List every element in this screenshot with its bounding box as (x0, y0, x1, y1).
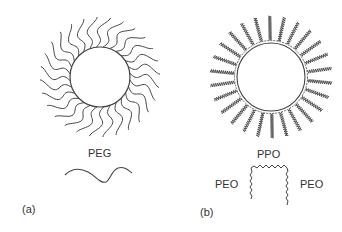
polymer-chain (126, 93, 140, 123)
polymer-chain (211, 81, 235, 87)
polymer-chain (219, 43, 240, 58)
polymer-chain (210, 69, 234, 75)
ppo-label: PPO (257, 149, 280, 160)
polymer-chain (116, 37, 146, 51)
polymer-chain (254, 19, 263, 42)
polymer-chain (130, 80, 155, 100)
peg-micelle (40, 17, 160, 137)
polymer-chain (128, 64, 160, 74)
polymer-chain (77, 19, 85, 52)
panel-a-label: (a) (22, 204, 35, 215)
polymer-chain (307, 67, 331, 73)
polymer-chain (103, 22, 123, 47)
peg-chain-icon (65, 167, 132, 182)
peo-left-label: PEO (215, 179, 238, 190)
polymer-chain (215, 90, 238, 102)
polymer-chain (231, 105, 248, 125)
diagram-canvas (0, 0, 342, 232)
polymer-chain (278, 17, 286, 40)
ppo-shell (235, 41, 308, 114)
polymer-chain (268, 16, 272, 40)
polymer-chain (279, 112, 288, 135)
polymer-chain (221, 98, 242, 114)
polymer-chain (60, 32, 74, 62)
polymer-chain (121, 98, 131, 130)
polymer-chain (128, 87, 148, 113)
polymer-chain (288, 109, 302, 131)
polymer-chain (300, 40, 321, 56)
peg-label: PEG (88, 148, 111, 159)
polymer-chain (270, 114, 274, 138)
polymer-chain (87, 17, 97, 49)
polymer-chain (286, 22, 299, 44)
polymer-chain (302, 96, 323, 111)
peo-right-label: PEO (300, 179, 323, 190)
polymer-chain (42, 92, 75, 100)
polymer-chain (40, 80, 72, 90)
polymer-chain (110, 28, 136, 48)
polymer-chain (294, 30, 311, 50)
polymer-chain (115, 102, 123, 135)
polymer-chain (47, 98, 79, 108)
peo-ppo-micelle (210, 16, 332, 138)
peo-ppo-peo-chain-icon (250, 165, 288, 205)
polymer-chain (69, 24, 79, 56)
panel-b-label: (b) (200, 207, 213, 218)
polymer-chain (77, 107, 97, 132)
polymer-chain (256, 114, 264, 137)
polymer-chain (65, 105, 91, 125)
polymer-chain (125, 54, 158, 62)
polymer-chain (308, 79, 332, 85)
polymer-chain (103, 105, 113, 137)
polymer-chain (51, 42, 71, 68)
polymer-chain (45, 54, 70, 74)
polymer-chain (228, 32, 246, 51)
core-circle (237, 43, 305, 111)
polymer-chain (243, 110, 256, 132)
polymer-chain (305, 53, 328, 65)
polymer-chain (213, 55, 236, 66)
polymer-chain (296, 103, 314, 122)
polymer-chain (55, 103, 85, 117)
polymer-chain (240, 24, 254, 46)
polymer-chain (306, 88, 329, 99)
polymer-chain (121, 46, 153, 56)
